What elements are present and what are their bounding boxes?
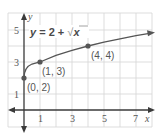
equation-middle: = 2 + [36, 26, 67, 38]
y-tick-1: 1 [14, 89, 19, 100]
point-label-1-3: (1, 3) [42, 66, 65, 77]
svg-text:y = 2 + √x: y = 2 + √x [29, 26, 80, 38]
point-4-4 [85, 43, 90, 48]
point-0-2 [21, 75, 26, 80]
x-tick-7: 7 [133, 113, 138, 124]
x-tick-1: 1 [38, 113, 43, 124]
equation-label: y = 2 + √x [29, 25, 89, 38]
y-axis-up-arrow-icon [21, 13, 27, 20]
curve-arrow-icon [147, 30, 155, 36]
x-tick-5: 5 [102, 113, 107, 124]
y-axis-down-arrow-icon [21, 126, 27, 133]
y-tick-5: 5 [14, 25, 19, 36]
x-axis-label: x [144, 113, 150, 124]
point-label-4-4: (4, 4) [91, 50, 114, 61]
point-label-0-2: (0, 2) [27, 82, 50, 93]
x-axis-left-arrow-icon [8, 107, 15, 113]
y-axis-label: y [27, 11, 33, 22]
x-tick-3: 3 [70, 113, 75, 124]
function-graph: 1 3 5 7 x 1 3 5 y (0, 2) (1, 3) (4, 4) y… [0, 0, 162, 138]
equation-radicand: x [72, 26, 80, 38]
point-1-3 [37, 59, 42, 64]
y-tick-3: 3 [14, 57, 19, 68]
